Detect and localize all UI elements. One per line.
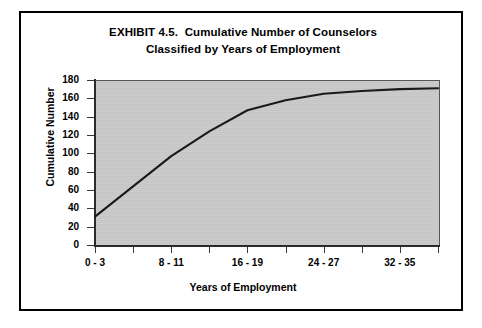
y-axis-title: Cumulative Number [44,77,56,197]
x-axis-title: Years of Employment [21,281,465,293]
x-axis-tick [400,247,401,253]
chart-title-line-2: Classified by Years of Employment [21,41,465,58]
x-axis-tick [133,247,134,253]
y-axis-tick [87,80,94,81]
x-axis-tick-label: 24 - 27 [289,257,359,268]
x-axis-tick-label: 16 - 19 [212,257,282,268]
chart-title: EXHIBIT 4.5. Cumulative Number of Counse… [21,24,465,58]
x-axis-tick [438,247,439,253]
x-axis-tick [95,247,96,253]
x-axis-tick-label: 0 - 3 [60,257,130,268]
x-axis-tick-label: 8 - 11 [136,257,206,268]
y-axis-tick [87,208,94,209]
y-axis-tick-label: 20 [39,222,79,232]
figure-frame: EXHIBIT 4.5. Cumulative Number of Counse… [19,11,463,311]
y-axis-tick [87,172,94,173]
y-axis-tick [87,117,94,118]
x-axis-tick [362,247,363,253]
y-axis-tick [87,227,94,228]
y-axis-tick [87,98,94,99]
x-axis-tick [209,247,210,253]
y-axis-tick [87,135,94,136]
chart-title-line-1: EXHIBIT 4.5. Cumulative Number of Counse… [21,24,465,41]
x-axis-tick [247,247,248,253]
x-axis-tick [286,247,287,253]
x-axis-tick [324,247,325,253]
x-axis-tick [171,247,172,253]
x-axis-tick-label: 32 - 35 [365,257,435,268]
y-axis-tick-label: 0 [39,240,79,250]
x-axis-line [94,245,440,247]
y-axis-tick-label: 40 [39,203,79,213]
series-polyline [95,88,438,216]
y-axis-tick [87,245,94,246]
y-axis-tick [87,190,94,191]
data-series-line [95,80,438,245]
y-axis-tick [87,153,94,154]
